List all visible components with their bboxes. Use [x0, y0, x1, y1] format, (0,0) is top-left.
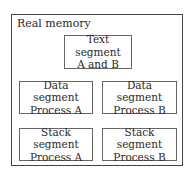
- stack-segment-b-box: Stack segment Process B: [102, 128, 177, 161]
- real-memory-label: Real memory: [17, 17, 91, 30]
- stack-segment-a-box: Stack segment Process A: [19, 128, 93, 161]
- segment-owner: Process B: [113, 104, 165, 117]
- segment-owner: Process B: [113, 151, 165, 164]
- segment-owner: Process A: [30, 104, 82, 117]
- segment-name: Data segment: [103, 79, 176, 104]
- segment-name: Stack segment: [103, 126, 176, 151]
- text-segment-box: Text segment A and B: [64, 35, 132, 69]
- segment-owner: A and B: [77, 58, 119, 71]
- segment-owner: Process A: [30, 151, 82, 164]
- segment-name: Text segment: [65, 33, 131, 58]
- data-segment-b-box: Data segment Process B: [102, 81, 177, 114]
- segment-name: Data segment: [20, 79, 92, 104]
- segment-name: Stack segment: [20, 126, 92, 151]
- data-segment-a-box: Data segment Process A: [19, 81, 93, 114]
